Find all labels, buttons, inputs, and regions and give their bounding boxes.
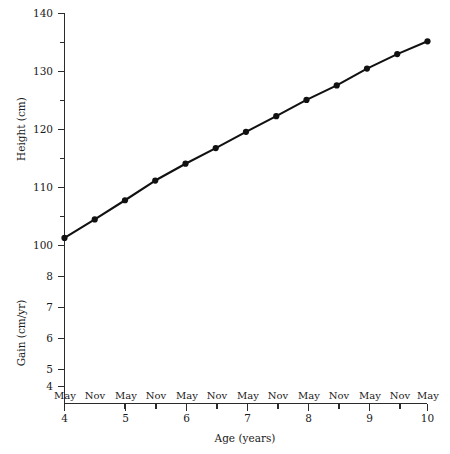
y2-tick-label-8: 8 xyxy=(46,270,53,282)
data-point xyxy=(122,197,128,203)
season-label-12: May xyxy=(417,390,439,401)
season-label-0: May xyxy=(54,390,76,401)
data-point xyxy=(243,129,249,135)
season-label-5: Nov xyxy=(207,390,228,401)
season-label-11: Nov xyxy=(390,390,411,401)
y-tick-label-140: 140 xyxy=(33,7,53,19)
season-label-6: May xyxy=(237,390,259,401)
data-point xyxy=(152,177,158,183)
y-tick-label-120: 120 xyxy=(33,123,53,135)
season-label-2: May xyxy=(115,390,137,401)
data-point xyxy=(334,82,340,88)
season-label-4: May xyxy=(176,390,198,401)
chart-canvas: 140 130 120 110 100 8 7 6 5 xyxy=(0,0,450,454)
season-label-7: Nov xyxy=(268,390,289,401)
y2-tick-label-4: 4 xyxy=(46,380,53,392)
x-tick-label-4: 4 xyxy=(61,412,68,424)
x-tick-label-10: 10 xyxy=(421,412,434,424)
age-axis-ticks: 4 5 6 7 8 9 10 xyxy=(61,404,434,425)
season-label-3: Nov xyxy=(146,390,167,401)
height-series xyxy=(61,38,430,241)
season-label-10: May xyxy=(359,390,381,401)
data-point xyxy=(394,51,400,57)
height-markers xyxy=(61,38,430,241)
y2-tick-label-6: 6 xyxy=(46,332,53,344)
x-tick-label-7: 7 xyxy=(244,412,251,424)
x-tick-label-8: 8 xyxy=(305,412,312,424)
season-label-9: Nov xyxy=(329,390,350,401)
y2-tick-label-7: 7 xyxy=(46,301,53,313)
season-label-1: Nov xyxy=(85,390,106,401)
data-point xyxy=(213,145,219,151)
y-axis-title: Height (cm) xyxy=(15,97,27,161)
height-axis-ticks: 140 130 120 110 100 xyxy=(33,7,65,251)
x-tick-label-5: 5 xyxy=(122,412,129,424)
season-labels: May Nov May Nov May Nov May Nov May Nov … xyxy=(54,390,439,401)
season-label-8: May xyxy=(298,390,320,401)
data-point xyxy=(303,97,309,103)
y2-axis-title: Gain (cm/yr) xyxy=(15,300,27,367)
data-point xyxy=(424,38,430,44)
gain-axis-ticks: 8 7 6 5 4 xyxy=(46,270,64,392)
x-axis-title: Age (years) xyxy=(214,432,276,444)
height-line xyxy=(65,41,428,238)
y-tick-label-100: 100 xyxy=(33,239,53,251)
x-tick-label-9: 9 xyxy=(366,412,373,424)
data-point xyxy=(182,161,188,167)
data-point xyxy=(364,66,370,72)
data-point xyxy=(61,235,67,241)
growth-chart: 140 130 120 110 100 8 7 6 5 xyxy=(0,0,450,454)
data-point xyxy=(273,113,279,119)
y-tick-label-110: 110 xyxy=(33,181,53,193)
data-point xyxy=(92,216,98,222)
y2-tick-label-5: 5 xyxy=(46,363,53,375)
x-tick-label-6: 6 xyxy=(183,412,190,424)
axes xyxy=(65,13,428,404)
y-tick-label-130: 130 xyxy=(33,65,53,77)
